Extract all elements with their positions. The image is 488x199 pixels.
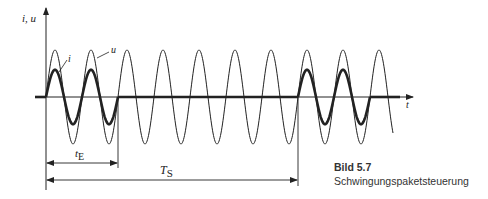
period-label: TS xyxy=(160,163,173,179)
u-leader-line xyxy=(97,52,109,58)
figure-title: Schwingungspaketsteuerung xyxy=(334,175,469,187)
x-axis-label: t xyxy=(406,99,409,110)
u-curve-label: u xyxy=(111,44,116,55)
figure-caption: Bild 5.7 Schwingungspaketsteuerung xyxy=(334,160,469,188)
on-time-label: tE xyxy=(75,147,84,162)
i-curve-label: i xyxy=(68,53,71,64)
y-axis-label: i, u xyxy=(22,12,37,24)
figure-number: Bild 5.7 xyxy=(334,160,469,174)
